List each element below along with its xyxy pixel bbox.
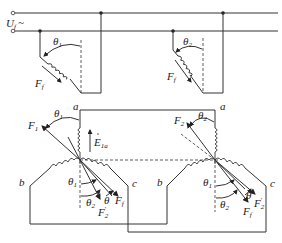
- svg-text:a: a: [73, 100, 79, 112]
- svg-text:Ff: Ff: [242, 205, 253, 219]
- supply-label: Uf~: [6, 16, 24, 31]
- svg-text:θ1: θ1: [53, 35, 62, 49]
- svg-text:Ff: Ff: [166, 70, 177, 84]
- svg-text:c: c: [132, 177, 137, 189]
- svg-text:Ff: Ff: [114, 194, 125, 208]
- svg-text:b: b: [157, 176, 163, 188]
- stator-right: a b c F2 θ2 θ1 θ2 θ F2′ Ff: [157, 100, 275, 232]
- svg-text:θ2: θ2: [220, 198, 229, 212]
- stator-left: a b c F1 θ1 E1a θ1: [19, 100, 266, 232]
- svg-text:F2′: F2′: [253, 196, 265, 211]
- svg-text:θ2: θ2: [183, 35, 192, 49]
- svg-text:θ: θ: [246, 189, 252, 201]
- svg-text:c: c: [270, 177, 275, 189]
- svg-text:θ2: θ2: [86, 196, 95, 210]
- svg-text:θ1: θ1: [68, 175, 77, 189]
- svg-text:F1: F1: [27, 119, 38, 133]
- svg-text:θ1: θ1: [203, 176, 212, 190]
- svg-text:b: b: [19, 176, 25, 188]
- synchro-diagram: Uf~ θ1 Ff θ2 Ff: [0, 0, 282, 243]
- top-rotor-1: θ1 Ff: [34, 11, 103, 93]
- svg-text:θ1: θ1: [54, 107, 63, 121]
- svg-text:E1a: E1a: [93, 136, 108, 150]
- svg-text:θ2: θ2: [198, 109, 207, 123]
- svg-text:F2: F2: [173, 114, 185, 128]
- supply-bus: Uf~: [6, 11, 278, 33]
- svg-text:a: a: [220, 100, 226, 112]
- svg-text:Ff: Ff: [34, 77, 45, 91]
- svg-text:F2′: F2′: [97, 205, 109, 220]
- terminal-top: [11, 11, 15, 15]
- top-rotor-2: θ2 Ff: [166, 11, 225, 93]
